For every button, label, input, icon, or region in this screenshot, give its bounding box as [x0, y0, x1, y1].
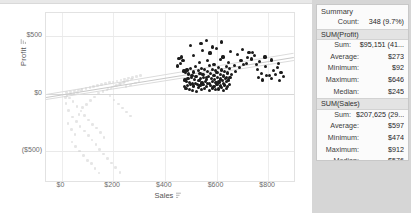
mark-selected[interactable] [220, 40, 223, 43]
mark-selected[interactable] [253, 54, 256, 57]
mark-unselected[interactable] [71, 116, 74, 119]
mark-selected[interactable] [279, 71, 282, 74]
x-axis-title[interactable]: Sales [45, 191, 293, 200]
mark-selected[interactable] [278, 79, 281, 82]
mark-unselected[interactable] [82, 154, 85, 157]
mark-unselected[interactable] [103, 136, 106, 139]
mark-unselected[interactable] [85, 87, 88, 90]
mark-unselected[interactable] [95, 143, 98, 146]
mark-selected[interactable] [219, 58, 222, 61]
mark-selected[interactable] [230, 73, 233, 76]
mark-selected[interactable] [208, 64, 211, 67]
mark-selected[interactable] [206, 59, 209, 62]
mark-selected[interactable] [227, 78, 230, 81]
mark-unselected[interactable] [115, 84, 118, 87]
mark-unselected[interactable] [76, 105, 79, 108]
mark-unselected[interactable] [119, 171, 122, 174]
mark-unselected[interactable] [95, 127, 98, 130]
mark-unselected[interactable] [117, 103, 120, 106]
mark-selected[interactable] [270, 77, 273, 80]
mark-unselected[interactable] [135, 75, 138, 78]
scatter-chart[interactable]: Profit $500$0($500) $0$200$400$600$800 S… [0, 4, 312, 194]
mark-unselected[interactable] [92, 85, 95, 88]
mark-selected[interactable] [276, 66, 279, 69]
mark-selected[interactable] [247, 51, 250, 54]
mark-selected[interactable] [272, 69, 275, 72]
mark-selected[interactable] [264, 65, 267, 68]
summary-section-header[interactable]: SUM(Sales) [317, 98, 408, 110]
mark-unselected[interactable] [72, 100, 75, 103]
mark-selected[interactable] [192, 70, 195, 73]
mark-selected[interactable] [274, 73, 277, 76]
mark-unselected[interactable] [83, 114, 86, 117]
mark-unselected[interactable] [123, 80, 126, 83]
mark-unselected[interactable] [78, 113, 81, 116]
mark-selected[interactable] [208, 51, 211, 54]
mark-unselected[interactable] [68, 97, 71, 100]
mark-selected[interactable] [282, 75, 285, 78]
mark-unselected[interactable] [74, 145, 77, 148]
mark-selected[interactable] [205, 39, 208, 42]
mark-selected[interactable] [236, 53, 239, 56]
mark-selected[interactable] [256, 68, 259, 71]
mark-selected[interactable] [194, 82, 197, 85]
mark-unselected[interactable] [102, 90, 105, 93]
mark-selected[interactable] [245, 62, 248, 65]
mark-unselected[interactable] [121, 107, 124, 110]
plot-area[interactable] [45, 12, 295, 182]
summary-panel[interactable]: Summary Count: 348 (9.7%) SUM(Profit)Sum… [316, 4, 409, 161]
mark-unselected[interactable] [113, 99, 116, 102]
mark-unselected[interactable] [100, 83, 103, 86]
mark-selected[interactable] [208, 89, 211, 92]
mark-unselected[interactable] [89, 86, 92, 89]
mark-selected[interactable] [263, 55, 266, 58]
mark-selected[interactable] [189, 44, 192, 47]
mark-unselected[interactable] [139, 74, 142, 77]
mark-unselected[interactable] [80, 89, 83, 92]
mark-selected[interactable] [211, 45, 214, 48]
mark-unselected[interactable] [94, 167, 97, 170]
mark-unselected[interactable] [93, 96, 96, 99]
mark-selected[interactable] [191, 89, 194, 92]
mark-selected[interactable] [250, 57, 253, 60]
mark-selected[interactable] [205, 85, 208, 88]
mark-selected[interactable] [241, 48, 244, 51]
mark-unselected[interactable] [91, 139, 94, 142]
mark-unselected[interactable] [134, 82, 137, 85]
mark-unselected[interactable] [102, 153, 105, 156]
mark-unselected[interactable] [106, 157, 109, 160]
mark-unselected[interactable] [69, 91, 72, 94]
mark-unselected[interactable] [104, 82, 107, 85]
mark-unselected[interactable] [109, 95, 112, 98]
mark-unselected[interactable] [114, 166, 117, 169]
mark-selected[interactable] [242, 63, 245, 66]
mark-selected[interactable] [260, 72, 263, 75]
mark-unselected[interactable] [87, 134, 90, 137]
mark-unselected[interactable] [70, 128, 73, 131]
mark-unselected[interactable] [130, 78, 133, 81]
mark-selected[interactable] [201, 49, 204, 52]
mark-unselected[interactable] [80, 110, 83, 113]
mark-selected[interactable] [234, 70, 237, 73]
mark-unselected[interactable] [129, 84, 132, 87]
mark-selected[interactable] [198, 61, 201, 64]
mark-selected[interactable] [192, 54, 195, 57]
mark-unselected[interactable] [76, 91, 79, 94]
mark-unselected[interactable] [99, 131, 102, 134]
mark-unselected[interactable] [98, 148, 101, 151]
mark-unselected[interactable] [119, 82, 122, 85]
mark-selected[interactable] [226, 71, 229, 74]
mark-selected[interactable] [215, 47, 218, 50]
mark-unselected[interactable] [79, 125, 82, 128]
mark-unselected[interactable] [125, 85, 128, 88]
mark-unselected[interactable] [91, 123, 94, 126]
mark-unselected[interactable] [73, 92, 76, 95]
mark-selected[interactable] [277, 62, 280, 65]
mark-unselected[interactable] [74, 133, 77, 136]
mark-selected[interactable] [205, 78, 208, 81]
mark-unselected[interactable] [126, 79, 129, 82]
mark-selected[interactable] [228, 76, 231, 79]
mark-selected[interactable] [195, 90, 198, 93]
mark-selected[interactable] [179, 62, 182, 65]
mark-unselected[interactable] [71, 141, 74, 144]
